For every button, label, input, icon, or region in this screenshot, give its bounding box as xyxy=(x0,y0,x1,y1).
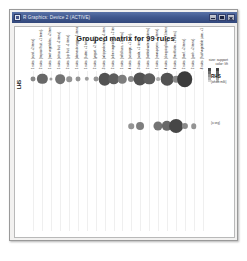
lhs-column-label: 1 rules: {domestic eggs, +1 items} xyxy=(76,26,79,69)
gridline xyxy=(122,71,123,231)
gridline xyxy=(194,71,195,231)
minimize-button[interactable] xyxy=(209,14,217,21)
rhs-axis-label: RHS xyxy=(211,74,221,79)
lhs-column-label: 3 rules: {soda, +1 items} xyxy=(138,38,141,69)
lhs-column-label: 1 rules: {rolls/buns, +2 items} xyxy=(120,32,123,69)
close-button[interactable] xyxy=(227,14,235,21)
gridline xyxy=(140,71,141,231)
rule-bubble xyxy=(31,77,36,82)
rule-bubble xyxy=(177,71,193,87)
gridline xyxy=(51,71,52,231)
gridline xyxy=(167,71,168,231)
r-graphics-icon xyxy=(14,14,21,21)
gridline xyxy=(131,71,132,231)
rule-bubble xyxy=(37,74,47,84)
lhs-column-label: 4 rules: {shopping bags, +1 items} xyxy=(165,26,168,69)
gridline xyxy=(105,71,106,231)
rule-bubble xyxy=(85,77,89,81)
gridline xyxy=(96,71,97,231)
lhs-column-label: 6 rules: {frankfurter, +1 items} xyxy=(174,31,177,69)
gridline xyxy=(185,71,186,231)
plot-canvas: Grouped matrix for 99 rules size: suppor… xyxy=(14,26,235,238)
lhs-column-label: 1 rules: {butter, +1 items} xyxy=(85,37,88,69)
gridline xyxy=(176,71,177,231)
rule-bubble xyxy=(156,77,160,81)
gridline xyxy=(149,71,150,231)
lhs-column-label: 1 rules: {newspapers, +1 items} xyxy=(156,29,159,69)
rule-bubble xyxy=(129,123,135,129)
rhs-row1-label: {whole milk} xyxy=(211,80,226,84)
rule-bubble xyxy=(169,119,183,133)
gridline xyxy=(33,71,34,231)
rule-bubble xyxy=(136,122,144,130)
lhs-column-label: 2 rules: {pork, +2 items} xyxy=(192,39,195,69)
matrix-panel: 1 rules: {curd, +2 items}2 rules: {tropi… xyxy=(29,71,207,231)
gridline xyxy=(114,71,115,231)
rule-bubble xyxy=(55,74,65,84)
window-controls xyxy=(209,14,235,21)
rule-bubble xyxy=(143,73,154,84)
gridline xyxy=(158,71,159,231)
lhs-column-label: 1 rules: {citrus fruit, +2 items} xyxy=(58,32,61,69)
rule-bubble xyxy=(118,75,127,84)
gridline xyxy=(87,71,88,231)
lhs-column-label: 2 rules: {other vegetables, +2 items} xyxy=(111,26,114,69)
lhs-column-label: 3 rules: {whipped cream, +1 items} xyxy=(103,26,106,69)
lhs-column-label: 8 rules: {fruit/vegetable juice, +1 item… xyxy=(200,26,203,69)
lhs-column-label: 2 rules: {tropical fruit, +1 items} xyxy=(40,29,43,69)
lhs-column-label: 2 rules: {pip fruit, +1 items} xyxy=(67,35,70,69)
rule-bubble xyxy=(182,123,188,129)
gridline xyxy=(69,71,70,231)
r-graphics-window: R Graphics: Device 2 (ACTIVE) Grouped ma… xyxy=(9,9,238,241)
gridline xyxy=(42,71,43,231)
lhs-column-label: 2 rules: {beef, +2 items} xyxy=(183,39,186,69)
lhs-column-label: 2 rules: {yogurt, +2 items} xyxy=(94,36,97,69)
gridline xyxy=(78,71,79,231)
lhs-column-label: 2 rules: {bottled water, +1 items} xyxy=(147,28,150,69)
window-title: R Graphics: Device 2 (ACTIVE) xyxy=(23,15,209,21)
window-titlebar[interactable]: R Graphics: Device 2 (ACTIVE) xyxy=(12,12,237,23)
lhs-column-label: 1 rules: {root vegetables, +2 items} xyxy=(49,26,52,69)
lhs-column-label: 4 rules: {sausage, +1 items} xyxy=(129,33,132,69)
lhs-column-label: 1 rules: {curd, +2 items} xyxy=(31,39,34,69)
rule-bubble xyxy=(75,77,80,82)
gridline xyxy=(60,71,61,231)
rule-bubble xyxy=(161,73,174,86)
maximize-button[interactable] xyxy=(218,14,226,21)
rhs-row2-label: {o.veg} xyxy=(211,121,220,125)
rule-bubble xyxy=(50,77,53,80)
rule-bubble xyxy=(191,123,197,129)
gridline xyxy=(203,71,204,231)
rule-bubble xyxy=(66,76,72,82)
lhs-axis-label: LHS xyxy=(17,80,22,89)
